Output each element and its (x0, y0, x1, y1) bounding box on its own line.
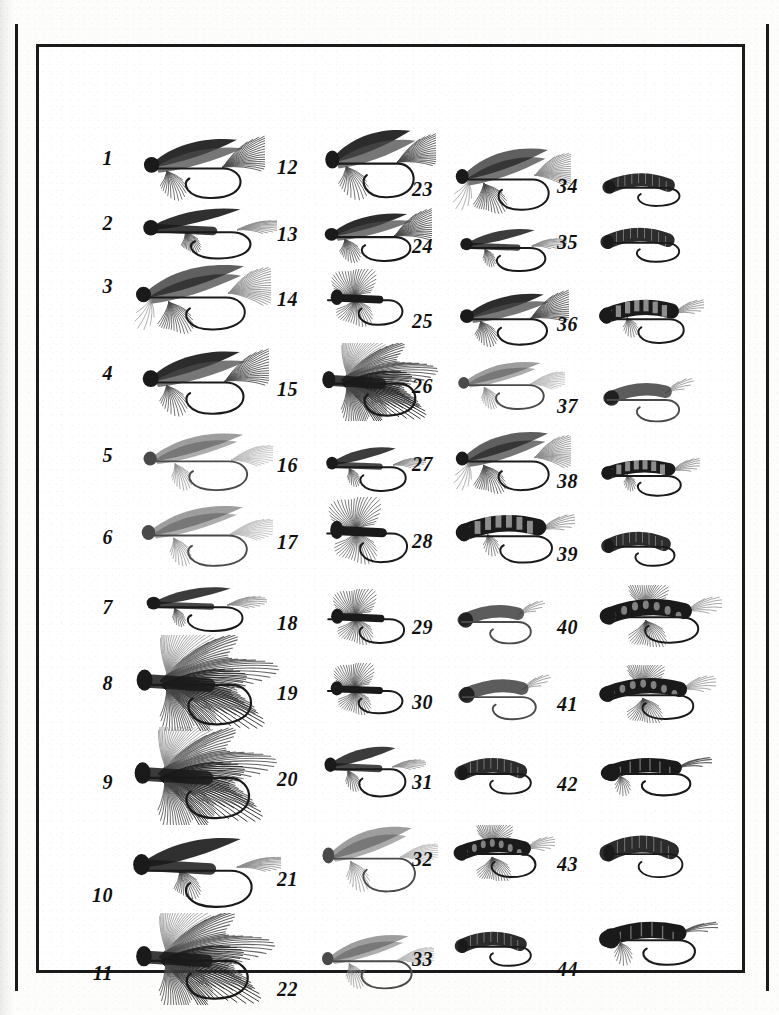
specimen-number-17: 17 (264, 532, 298, 552)
page-rule-left (15, 24, 18, 991)
scanned-page: 1 2 3 4 (0, 0, 779, 1015)
specimen-number-2: 2 (79, 213, 113, 233)
fly-specimen-37-nymph-plain (590, 373, 698, 425)
specimen-number-40: 40 (544, 617, 578, 637)
fly-specimen-44-nymph-tailed (586, 909, 718, 969)
specimen-number-1: 1 (79, 148, 113, 168)
specimen-number-25: 25 (399, 311, 433, 331)
specimen-number-3: 3 (79, 276, 113, 296)
specimen-number-22: 22 (264, 979, 298, 999)
fly-specimen-3-wet-fly-long-hackle (121, 257, 271, 335)
specimen-number-27: 27 (399, 454, 433, 474)
fly-specimen-9-streamer-bushy (117, 727, 277, 825)
fly-specimen-1-wet-fly-dark-wing (125, 131, 265, 203)
specimen-number-42: 42 (544, 774, 578, 794)
specimen-number-11: 11 (79, 963, 113, 983)
specimen-column-1: 1 2 3 4 (79, 47, 279, 970)
specimen-number-30: 30 (399, 692, 433, 712)
plate-frame: 1 2 3 4 (36, 44, 745, 973)
specimen-number-4: 4 (79, 363, 113, 383)
specimen-number-28: 28 (399, 531, 433, 551)
fly-specimen-10-wet-fly-tail-streamer (113, 825, 281, 913)
specimen-number-37: 37 (544, 396, 578, 416)
fly-specimen-32-nymph-legged (443, 825, 555, 881)
specimen-number-21: 21 (264, 869, 298, 889)
fly-specimen-40-nymph-legged (586, 585, 722, 647)
specimen-number-32: 32 (399, 849, 433, 869)
specimen-number-24: 24 (399, 236, 433, 256)
specimen-number-10: 10 (79, 885, 113, 905)
fly-specimen-35-scud-curved (590, 219, 698, 265)
specimen-number-23: 23 (399, 179, 433, 199)
fly-specimen-41-nymph-legged (586, 665, 716, 723)
specimen-number-31: 31 (399, 772, 433, 792)
specimen-column-4: 34 35 36 37 38 (544, 47, 734, 970)
specimen-number-8: 8 (79, 673, 113, 693)
specimen-number-43: 43 (544, 854, 578, 874)
specimen-number-12: 12 (264, 157, 298, 177)
fly-specimen-42-nymph-tailed (588, 747, 712, 799)
specimen-number-36: 36 (544, 314, 578, 334)
fly-specimen-4-wet-fly-dark-wing (123, 343, 269, 419)
specimen-number-26: 26 (399, 376, 433, 396)
fly-specimen-39-scud-curved (592, 523, 692, 569)
page-rule-right (766, 24, 769, 991)
fly-specimen-30-nymph-plain (445, 669, 555, 723)
specimen-number-9: 9 (79, 772, 113, 792)
specimen-number-29: 29 (399, 617, 433, 637)
fly-specimen-7-wet-fly-slim (127, 577, 267, 635)
specimen-number-13: 13 (264, 224, 298, 244)
fly-specimen-33-scud-curved (445, 923, 549, 969)
specimen-number-19: 19 (264, 683, 298, 703)
specimen-number-18: 18 (264, 613, 298, 633)
fly-specimen-29-nymph-plain (445, 595, 549, 647)
fly-specimen-5-wet-fly-pale-wing (125, 425, 273, 495)
specimen-number-44: 44 (544, 959, 578, 979)
fly-specimen-38-nymph-segmented (590, 451, 700, 499)
specimen-number-33: 33 (399, 949, 433, 969)
specimen-number-5: 5 (79, 445, 113, 465)
specimen-number-38: 38 (544, 471, 578, 491)
specimen-number-14: 14 (264, 289, 298, 309)
specimen-number-41: 41 (544, 694, 578, 714)
specimen-number-15: 15 (264, 379, 298, 399)
specimen-number-7: 7 (79, 597, 113, 617)
fly-specimen-43-scud-curved (590, 825, 702, 881)
fly-specimen-36-nymph-segmented (588, 289, 704, 347)
page-gutter-shadow (0, 0, 16, 1015)
specimen-number-20: 20 (264, 769, 298, 789)
specimen-number-39: 39 (544, 544, 578, 564)
fly-specimen-2-wet-fly-tail-streamer (125, 199, 277, 263)
specimen-number-34: 34 (544, 176, 578, 196)
fly-specimen-6-wet-fly-pale-wing (123, 497, 273, 571)
specimen-number-16: 16 (264, 455, 298, 475)
fly-specimen-11-streamer-bushy (119, 913, 275, 1005)
fly-specimen-34-scud-curved (592, 165, 698, 209)
fly-specimen-31-scud-curved (445, 749, 549, 797)
specimen-number-6: 6 (79, 527, 113, 547)
fly-specimen-8-streamer-bushy (119, 635, 279, 731)
specimen-number-35: 35 (544, 232, 578, 252)
